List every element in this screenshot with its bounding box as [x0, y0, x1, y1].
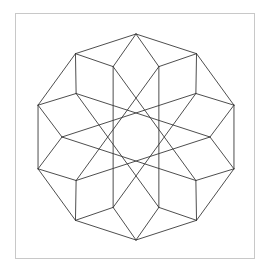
zigzag-edge	[136, 34, 159, 67]
zigzag-edge	[196, 94, 234, 106]
star-chord	[113, 94, 196, 208]
zigzag-edge	[38, 169, 76, 181]
zigzag-edge	[210, 105, 234, 137]
decagon-edge	[75, 34, 136, 54]
star-chord	[76, 137, 210, 181]
star-chord	[76, 94, 210, 138]
zigzag-edge	[38, 137, 62, 169]
star-chords	[62, 67, 210, 208]
zigzag-edge	[196, 54, 197, 94]
decagon-edge	[136, 34, 197, 54]
zigzag-edge	[75, 54, 113, 67]
decagon-edge	[136, 220, 197, 240]
zigzag-edge	[38, 94, 76, 106]
decagon-edge	[197, 54, 234, 106]
zigzag-edge	[159, 207, 197, 220]
star-chord	[62, 137, 196, 181]
zigzag-edge	[196, 169, 234, 181]
zigzag-edge	[113, 34, 136, 67]
decagon-edge	[75, 220, 136, 240]
zigzag-edge	[38, 105, 62, 137]
star-chord	[62, 94, 196, 138]
zigzag-edge	[136, 207, 159, 240]
zigzag-edge	[75, 54, 76, 94]
zigzag-edge	[75, 207, 113, 220]
decagon-edge	[38, 169, 75, 221]
zigzag-edge	[159, 54, 197, 67]
star-chord	[76, 67, 159, 181]
decagon-edge	[38, 54, 75, 106]
zigzag-edge	[113, 207, 136, 240]
outer-decagon	[38, 34, 234, 240]
decagon-edge	[197, 169, 234, 221]
star-chord	[76, 94, 159, 208]
star-chord	[113, 67, 196, 181]
geometric-star-figure	[0, 0, 271, 273]
zigzag-edge	[75, 181, 76, 221]
zigzag-edge	[210, 137, 234, 169]
zigzag-edge	[196, 181, 197, 221]
